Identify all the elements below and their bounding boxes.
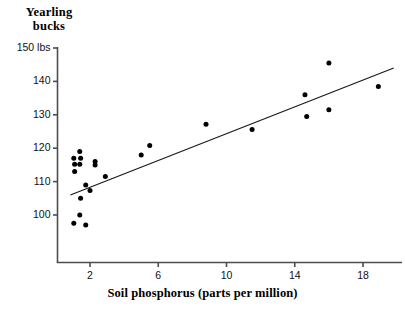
data-point — [71, 156, 76, 161]
data-point — [72, 162, 77, 167]
data-point — [304, 114, 309, 119]
y-axis-tick-label: 130 — [33, 108, 51, 120]
data-point — [88, 188, 93, 193]
x-axis-tick-label: 2 — [70, 269, 110, 281]
plot-area — [0, 0, 405, 309]
data-point — [147, 143, 152, 148]
data-point — [78, 196, 83, 201]
data-point — [78, 156, 83, 161]
data-point — [77, 213, 82, 218]
y-axis-tick-label: 100 — [33, 208, 51, 220]
regression-trendline — [70, 68, 393, 195]
data-point — [326, 61, 331, 66]
x-axis-tick-label: 14 — [275, 269, 315, 281]
data-point — [302, 92, 307, 97]
y-axis-tick-label: 110 — [34, 175, 51, 187]
data-point — [83, 223, 88, 228]
data-point — [83, 182, 88, 187]
y-axis-tick-label: 150 lbs — [17, 41, 51, 53]
data-point — [326, 107, 331, 112]
x-axis-tick-label: 18 — [343, 269, 383, 281]
data-point — [77, 149, 82, 154]
data-point — [93, 162, 98, 167]
data-point — [71, 221, 76, 226]
data-point — [376, 84, 381, 89]
x-axis-tick-label: 6 — [138, 269, 178, 281]
y-axis-tick-label: 120 — [33, 141, 51, 153]
data-point — [77, 162, 82, 167]
data-point — [72, 169, 77, 174]
data-point — [103, 174, 108, 179]
scatter-plot-figure: Yearling bucks 100110120130140150 lbs261… — [0, 0, 405, 309]
data-point — [250, 127, 255, 132]
data-point — [204, 122, 209, 127]
x-axis-tick-label: 10 — [207, 269, 247, 281]
data-point — [139, 152, 144, 157]
x-axis-title: Soil phosphorus (parts per million) — [0, 286, 405, 301]
y-axis-tick-label: 140 — [33, 74, 51, 86]
